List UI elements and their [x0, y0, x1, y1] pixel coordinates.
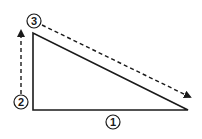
diagram-canvas: 3 2 1	[0, 0, 202, 139]
step-1-marker: 1	[106, 115, 120, 129]
right-triangle	[33, 33, 188, 110]
triangle-diagram: 3 2 1	[0, 0, 202, 139]
step-3-label: 3	[31, 15, 37, 27]
step-3-marker: 3	[27, 14, 41, 28]
diagonal-dashed-arrow	[42, 25, 190, 97]
step-1-label: 1	[110, 116, 116, 128]
step-2-label: 2	[18, 96, 24, 108]
step-2-marker: 2	[14, 95, 28, 109]
